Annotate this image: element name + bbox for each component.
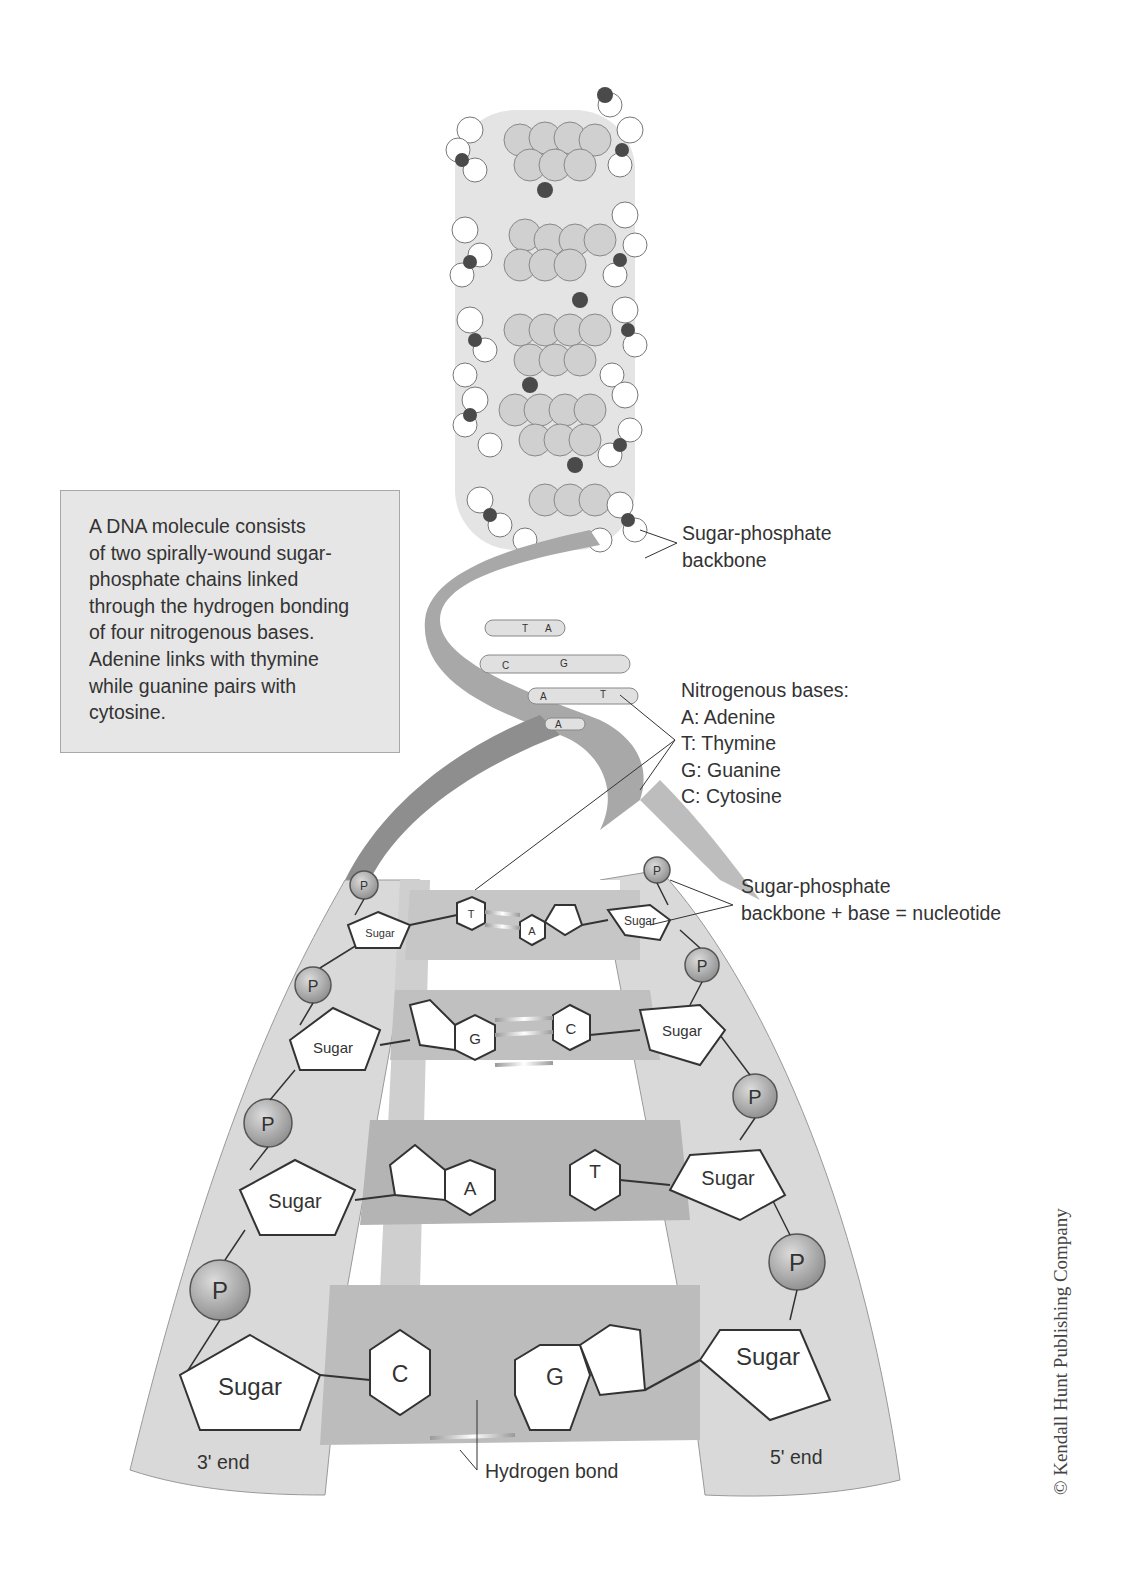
description-line: A DNA molecule consists	[89, 513, 399, 540]
svg-text:A: A	[528, 925, 536, 937]
description-line: Adenine links with thymine	[89, 646, 399, 673]
svg-text:P: P	[697, 958, 708, 975]
svg-text:T: T	[589, 1161, 601, 1182]
svg-text:C: C	[566, 1020, 577, 1037]
description-line: while guanine pairs with	[89, 673, 399, 700]
description-line: through the hydrogen bonding	[89, 593, 399, 620]
svg-text:Sugar: Sugar	[701, 1167, 755, 1189]
svg-text:P: P	[653, 864, 661, 878]
base-guanine: G: Guanine	[681, 757, 849, 784]
helix-base-label: G	[560, 658, 568, 669]
copyright-notice: © Kendall Hunt Publishing Company	[1050, 1208, 1072, 1495]
svg-text:Sugar: Sugar	[662, 1022, 702, 1039]
svg-text:P: P	[212, 1277, 228, 1304]
svg-text:Sugar: Sugar	[313, 1039, 353, 1056]
svg-text:P: P	[308, 978, 319, 995]
svg-text:G: G	[546, 1364, 564, 1390]
base-cytosine: C: Cytosine	[681, 783, 849, 810]
svg-text:G: G	[469, 1030, 481, 1047]
svg-text:Sugar: Sugar	[736, 1343, 800, 1370]
svg-text:A: A	[464, 1178, 477, 1199]
nitrogenous-bases-label: Nitrogenous bases: A: Adenine T: Thymine…	[681, 677, 849, 810]
helix-base-label: A	[540, 691, 547, 702]
svg-text:T: T	[468, 908, 475, 920]
helix-base-label: T	[600, 689, 606, 700]
svg-text:Sugar: Sugar	[365, 927, 395, 939]
three-prime-end-label: 3' end	[197, 1449, 250, 1476]
description-line: of four nitrogenous bases.	[89, 619, 399, 646]
space-filling-molecule-model	[446, 87, 647, 552]
svg-text:Sugar: Sugar	[268, 1190, 322, 1212]
base-adenine: A: Adenine	[681, 704, 849, 731]
svg-text:C: C	[392, 1361, 409, 1387]
svg-text:Sugar: Sugar	[218, 1373, 282, 1400]
helix-base-label: A	[545, 623, 552, 634]
helix-base-label: C	[502, 660, 509, 671]
description-box: A DNA molecule consists of two spirally-…	[60, 490, 400, 753]
svg-text:P: P	[789, 1249, 805, 1276]
five-prime-end-label: 5' end	[770, 1444, 823, 1471]
helix-base-label: T	[522, 623, 528, 634]
svg-text:P: P	[261, 1113, 274, 1135]
hydrogen-bond-label: Hydrogen bond	[485, 1458, 618, 1485]
helix-base-label: A	[555, 719, 562, 730]
dna-diagram: T A C G A T A P P P P P P P P	[0, 0, 1143, 1591]
svg-text:Sugar: Sugar	[624, 914, 656, 928]
description-line: of two spirally-wound sugar-	[89, 540, 399, 567]
description-line: cytosine.	[89, 699, 399, 726]
backbone-label: Sugar-phosphate backbone	[682, 520, 832, 573]
svg-text:P: P	[360, 879, 368, 893]
description-line: phosphate chains linked	[89, 566, 399, 593]
base-thymine: T: Thymine	[681, 730, 849, 757]
nucleotide-label: Sugar-phosphate backbone + base = nucleo…	[741, 873, 1001, 926]
svg-text:P: P	[748, 1086, 761, 1108]
